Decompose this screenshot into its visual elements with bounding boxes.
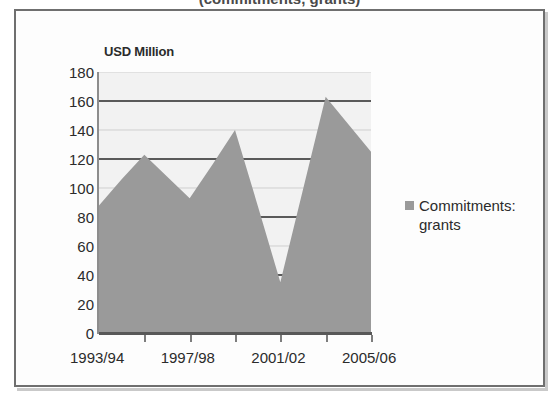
y-axis-tick-label: 100 (40, 181, 94, 196)
area-series-svg (99, 72, 371, 333)
x-axis-tick-labels: 1993/941997/982001/022005/06 (56, 349, 396, 373)
x-axis-tick-mark (280, 335, 282, 342)
y-axis-tick-label: 20 (40, 297, 94, 312)
x-axis-tick-label: 1993/94 (70, 349, 124, 367)
y-axis-tick-label: 40 (40, 268, 94, 283)
y-axis-tick-label: 0 (40, 326, 94, 341)
chart-frame: USD Million 180160140120100806040200 199… (14, 9, 545, 387)
y-axis-line (97, 72, 99, 334)
y-axis-tick-label: 160 (40, 94, 94, 109)
area-series-commitments-grants (99, 97, 371, 333)
x-axis-tick-label: 1997/98 (161, 349, 215, 367)
y-axis-tick-label: 80 (40, 210, 94, 225)
chart-legend: Commitments: grants (405, 196, 555, 234)
x-axis-tick-mark (144, 335, 146, 342)
x-axis-tick-label: 2001/02 (251, 349, 305, 367)
plot-area (99, 72, 371, 333)
x-axis-tick-label: 2005/06 (342, 349, 396, 367)
x-axis-tick-mark (235, 335, 237, 342)
cropped-chart-title-text: (commitments, grants) (199, 0, 361, 7)
cropped-chart-title: (commitments, grants) (0, 0, 559, 7)
y-axis-tick-label: 60 (40, 239, 94, 254)
y-axis-tick-label: 120 (40, 152, 94, 167)
legend-item-label: Commitments: grants (419, 196, 544, 234)
x-axis-tick-mark (326, 335, 328, 342)
chart-screenshot: (commitments, grants) USD Million 180160… (0, 0, 559, 401)
frame-shadow-bottom (17, 388, 548, 391)
y-axis-title: USD Million (104, 44, 174, 59)
y-axis-tick-label: 140 (40, 123, 94, 138)
legend-item: Commitments: grants (405, 196, 555, 234)
y-axis-tick-label: 180 (40, 65, 94, 80)
legend-square-marker-icon (405, 201, 414, 210)
x-axis-tick-mark (371, 335, 373, 342)
y-axis-tick-labels: 180160140120100806040200 (40, 66, 94, 339)
x-axis-tick-mark (190, 335, 192, 342)
